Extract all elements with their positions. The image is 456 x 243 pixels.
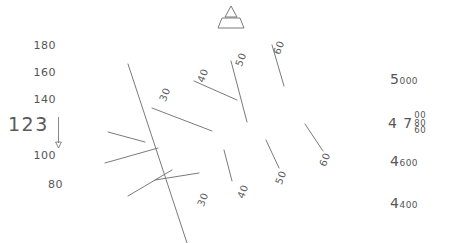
pitch-label-up-40: 40 (195, 67, 210, 84)
airspeed-trend-vector-icon (54, 117, 63, 149)
pitch-minor-tick-2 (128, 170, 172, 196)
pitch-label-up-60: 60 (271, 39, 286, 56)
altitude-tick-4400: 4400 (390, 193, 418, 212)
altitude-roller-digit-2: 60 (414, 127, 426, 135)
altitude-current-readout: 4 7 008060 (388, 112, 426, 135)
altitude-tick-thousands: 4 (390, 153, 399, 169)
pitch-line-up-40-1 (194, 81, 237, 100)
altitude-tick-hundreds: 000 (399, 76, 418, 86)
airspeed-current-value: 123 (8, 113, 49, 135)
pitch-label-down-60: 60 (317, 151, 332, 168)
altitude-tick-hundreds: 600 (399, 158, 418, 168)
pitch-line-up-50-2 (231, 61, 247, 122)
airspeed-tick-160: 160 (0, 66, 56, 79)
airspeed-tick-80: 80 (7, 178, 63, 191)
pitch-label-down-30: 30 (195, 191, 210, 208)
airspeed-tick-140: 140 (0, 93, 56, 106)
pitch-line-down-40-5 (224, 150, 232, 181)
altitude-tick-hundreds: 400 (399, 200, 418, 210)
altitude-tick-thousands: 4 (390, 195, 399, 211)
bank-angle-pointer (218, 6, 244, 28)
pitch-label-down-40: 40 (235, 183, 250, 200)
pitch-line-up-30-0 (152, 108, 212, 131)
bank-pointer-triangle-icon (225, 6, 237, 17)
airspeed-tick-100: 100 (0, 149, 56, 162)
pitch-line-down-30-4 (155, 173, 199, 180)
airspeed-tape: 18016014010080 123 (0, 0, 110, 243)
altitude-readout-roller: 008060 (414, 112, 426, 135)
altitude-tick-4600: 4600 (390, 151, 418, 170)
pitch-line-down-60-7 (305, 124, 323, 151)
bank-pointer-base-icon (218, 18, 244, 28)
primary-flight-display: 3040506030405060 18016014010080 123 5000… (0, 0, 456, 243)
pitch-label-down-50: 50 (273, 169, 288, 186)
pitch-minor-tick-0 (108, 132, 145, 142)
pitch-label-up-30: 30 (157, 86, 172, 103)
pitch-label-up-50: 50 (233, 51, 248, 68)
altitude-tape: 500046004400 4 7 008060 (380, 0, 456, 243)
pitch-minor-tick-1 (105, 148, 158, 163)
altitude-readout-thousands: 4 7 (388, 115, 413, 131)
airspeed-tick-180: 180 (0, 39, 56, 52)
altitude-tick-thousands: 5 (390, 71, 399, 87)
pitch-line-down-50-6 (266, 140, 279, 168)
altitude-tick-5000: 5000 (390, 69, 418, 88)
horizon-line (128, 64, 187, 243)
